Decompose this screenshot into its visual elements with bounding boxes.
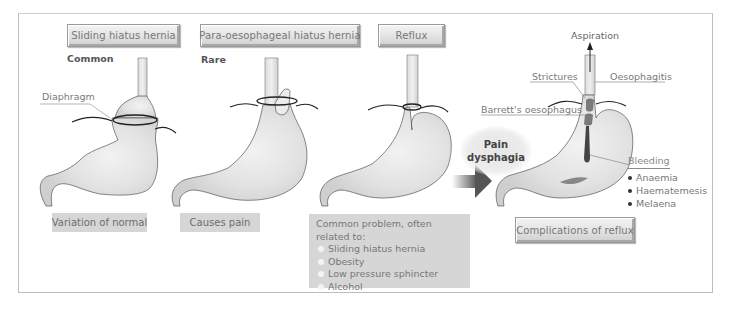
diaphragm-label: Diaphragm — [42, 91, 95, 102]
bleeding-group: Bleeding Anaemia Haematemesis Melaena — [628, 154, 707, 210]
reflux-causes-heading: Common problem, often related to: — [316, 218, 463, 243]
oesophagitis-label: Oesophagitis — [610, 71, 672, 82]
dysphagia-label: dysphagia — [467, 151, 525, 164]
subtitle-rare: Rare — [201, 54, 226, 65]
barretts-oesophagus-label: Barrett's oesophagus — [481, 104, 582, 115]
reflux-causes-list: Sliding hiatus hernia Obesity Low pressu… — [316, 243, 463, 293]
caption-causes-pain: Causes pain — [180, 213, 260, 232]
panel-title-para-oesophageal-hernia: Para-oesophageal hiatus hernia — [200, 24, 360, 47]
caption-variation-of-normal: Variation of normal — [52, 213, 147, 232]
list-item: Sliding hiatus hernia — [316, 243, 463, 256]
panel-title-reflux: Reflux — [378, 24, 445, 47]
subtitle-common: Common — [67, 53, 114, 64]
pain-label: Pain — [484, 138, 508, 151]
list-item: Melaena — [628, 197, 707, 210]
list-item: Alcohol — [316, 281, 463, 294]
reflux-causes-box: Common problem, often related to: Slidin… — [309, 214, 470, 288]
para-oesophageal-stomach — [172, 58, 318, 206]
bleeding-list: Anaemia Haematemesis Melaena — [628, 171, 707, 210]
list-item: Obesity — [316, 256, 463, 269]
aspiration-label: Aspiration — [571, 30, 619, 41]
complications-of-reflux-title: Complications of reflux — [515, 217, 635, 243]
sliding-hernia-stomach — [40, 58, 176, 206]
list-item: Anaemia — [628, 171, 707, 184]
panel-title-sliding-hiatus-hernia: Sliding hiatus hernia — [67, 24, 180, 47]
list-item: Low pressure sphincter — [316, 268, 463, 281]
pain-dysphagia-bubble: Pain dysphagia — [460, 126, 532, 176]
strictures-label: Strictures — [532, 71, 578, 82]
bleeding-label: Bleeding — [628, 154, 670, 169]
list-item: Haematemesis — [628, 184, 707, 197]
reflux-stomach — [320, 55, 451, 206]
